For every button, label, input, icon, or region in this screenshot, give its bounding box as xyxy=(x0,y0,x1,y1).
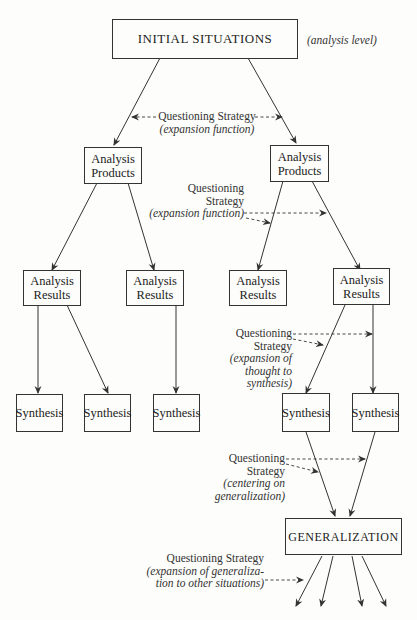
analysis-level-note: (analysis level) xyxy=(307,34,377,47)
synthesis-label: Synthesis xyxy=(16,406,64,420)
box-label-line: Products xyxy=(278,164,322,178)
strategy-title: Strategy xyxy=(205,465,285,478)
strategy-note-1: Questioning Strategy (expansion function… xyxy=(152,110,262,135)
box-label-line: Products xyxy=(91,166,135,180)
strategy-function: (expansion function) xyxy=(160,123,255,135)
strategy-title: Strategy xyxy=(140,195,244,208)
strategy-title: Questioning xyxy=(205,452,285,465)
strategy-function: (expansion of xyxy=(230,352,292,364)
strategy-note-4: Questioning Strategy (centering on gener… xyxy=(205,452,285,502)
initial-situations-box: INITIAL SITUATIONS xyxy=(112,19,298,59)
analysis-results-box-1: AnalysisResults xyxy=(23,270,81,306)
analysis-level-text: (analysis level) xyxy=(307,34,377,46)
strategy-function: thought to xyxy=(245,365,292,377)
analysis-results-box-4: AnalysisResults xyxy=(333,268,390,305)
strategy-function: tion to other situations) xyxy=(156,577,264,589)
initial-situations-label: INITIAL SITUATIONS xyxy=(138,32,273,46)
strategy-note-5: Questioning Strategy (expansion of gener… xyxy=(130,552,264,590)
box-label-line: Results xyxy=(30,288,74,302)
synthesis-box-2: Synthesis xyxy=(84,394,131,432)
box-label-line: Analysis xyxy=(133,274,177,288)
analysis-products-box-right: AnalysisProducts xyxy=(270,145,329,182)
synthesis-label: Synthesis xyxy=(84,406,132,420)
strategy-function: (expansion of generaliza- xyxy=(146,565,264,577)
strategy-function: synthesis) xyxy=(247,377,292,389)
strategy-function: (expansion function) xyxy=(149,207,244,219)
analysis-results-box-3: AnalysisResults xyxy=(229,270,287,306)
box-label-line: Analysis xyxy=(340,273,384,287)
strategy-function: generalization) xyxy=(215,490,285,502)
box-label-line: Analysis xyxy=(278,150,322,164)
strategy-title: Strategy xyxy=(220,340,292,353)
strategy-title: Questioning Strategy xyxy=(152,110,262,123)
box-label-line: Results xyxy=(133,288,177,302)
strategy-title: Questioning xyxy=(140,182,244,195)
analysis-results-box-2: AnalysisResults xyxy=(126,270,184,306)
box-label-line: Analysis xyxy=(236,274,280,288)
box-label-line: Results xyxy=(236,288,280,302)
synthesis-box-5: Synthesis xyxy=(352,393,399,432)
generalization-box: GENERALIZATION xyxy=(285,518,402,555)
synthesis-label: Synthesis xyxy=(352,406,400,420)
strategy-note-2: Questioning Strategy (expansion function… xyxy=(140,182,244,220)
generalization-label: GENERALIZATION xyxy=(288,530,398,544)
strategy-title: Questioning Strategy xyxy=(130,552,264,565)
strategy-function: (centering on xyxy=(223,477,285,489)
synthesis-box-1: Synthesis xyxy=(16,394,63,432)
synthesis-label: Synthesis xyxy=(153,406,201,420)
box-label-line: Analysis xyxy=(30,274,74,288)
synthesis-box-4: Synthesis xyxy=(282,393,330,432)
strategy-title: Questioning xyxy=(220,327,292,340)
box-label-line: Analysis xyxy=(91,152,135,166)
box-label-line: Results xyxy=(340,287,384,301)
analysis-products-box-left: AnalysisProducts xyxy=(84,147,142,184)
strategy-note-3: Questioning Strategy (expansion of thoug… xyxy=(220,327,292,390)
synthesis-label: Synthesis xyxy=(282,406,330,420)
synthesis-box-3: Synthesis xyxy=(153,394,200,432)
